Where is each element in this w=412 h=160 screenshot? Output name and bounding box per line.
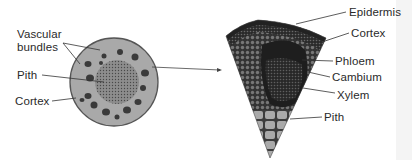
label-phloem: Phloem <box>335 55 375 67</box>
label-pith-left: Pith <box>17 69 37 81</box>
magnification-arrow <box>152 67 222 72</box>
label-cortex-right: Cortex <box>351 27 385 39</box>
label-cambium: Cambium <box>332 71 382 83</box>
label-vascular-bundles-line1: Vascular <box>17 28 62 40</box>
label-epidermis: Epidermis <box>349 6 401 18</box>
label-vascular-bundles-line2: bundles <box>17 41 58 53</box>
stem-wedge-enlarged <box>220 12 349 160</box>
stem-cross-section <box>42 38 158 126</box>
label-xylem: Xylem <box>337 89 369 101</box>
label-cortex-left: Cortex <box>15 95 49 107</box>
stem-diagram: Vascular bundles Pith Cortex Epidermis C… <box>0 0 412 160</box>
label-pith-right: Pith <box>324 111 344 123</box>
